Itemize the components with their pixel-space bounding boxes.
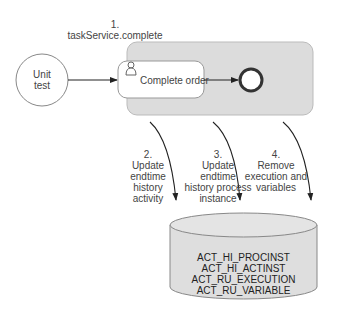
step-4-number: 4. bbox=[240, 149, 312, 160]
step-4-line: variables bbox=[240, 182, 312, 193]
db-table-name: ACT_HI_ACTINST bbox=[170, 263, 317, 274]
step-2-number: 2. bbox=[125, 149, 171, 160]
step-4-line: execution and bbox=[240, 171, 312, 182]
unit-test-label-line2: test bbox=[16, 80, 68, 91]
step-2-line: endtime bbox=[125, 171, 171, 182]
step-3-line: instance bbox=[176, 193, 260, 204]
step-1-number: 1. bbox=[50, 19, 180, 30]
step-2-line: history bbox=[125, 182, 171, 193]
unit-test-label-line1: Unit bbox=[16, 69, 68, 80]
step-2-line: activity bbox=[125, 193, 171, 204]
database-tables: ACT_HI_PROCINST ACT_HI_ACTINST ACT_RU_EX… bbox=[170, 252, 317, 296]
db-table-name: ACT_RU_EXECUTION bbox=[170, 274, 317, 285]
unit-test-label: Unit test bbox=[16, 69, 68, 91]
step-2-label: 2. Update endtime history activity bbox=[125, 149, 171, 204]
step-4-line: Remove bbox=[240, 160, 312, 171]
db-table-name: ACT_HI_PROCINST bbox=[170, 252, 317, 263]
task-label: Complete order bbox=[140, 75, 200, 86]
step-1-text: taskService.complete bbox=[50, 30, 180, 41]
db-table-name: ACT_RU_VARIABLE bbox=[170, 285, 317, 296]
step-2-line: Update bbox=[125, 160, 171, 171]
step-1-label: 1. taskService.complete bbox=[50, 19, 180, 41]
step-4-label: 4. Remove execution and variables bbox=[240, 149, 312, 193]
end-event-circle bbox=[240, 69, 262, 91]
